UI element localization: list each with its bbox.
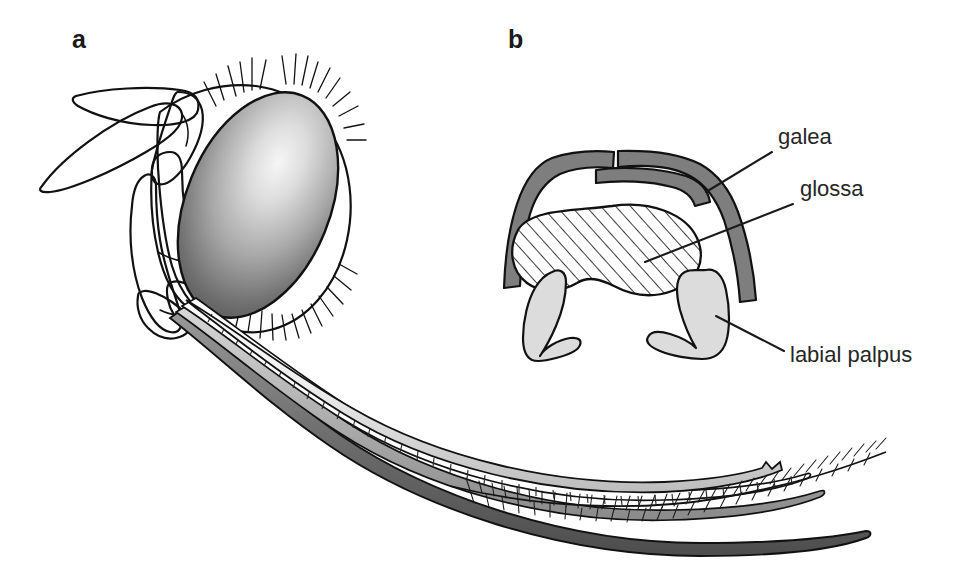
figure-illustration: a: [0, 0, 961, 577]
label-glossa: glossa: [800, 176, 864, 201]
panel-a: a: [40, 25, 886, 556]
panel-b-letter: b: [508, 25, 523, 53]
antenna: [40, 88, 203, 192]
antenna-segment-upper: [73, 88, 199, 125]
proboscis-strand-labial-palpus: [170, 308, 871, 556]
antenna-segment-lower: [40, 103, 182, 192]
panel-a-letter: a: [72, 25, 87, 53]
leader-line-galea: [706, 152, 772, 192]
label-galea: galea: [778, 124, 833, 149]
label-labial-palpus: labial palpus: [790, 342, 912, 367]
figure-container: a: [0, 0, 961, 577]
panel-b: b galea glossa: [495, 25, 912, 367]
